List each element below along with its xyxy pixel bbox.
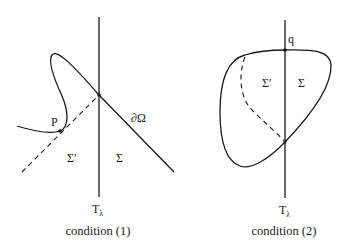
region-sigma-label: Σ (298, 76, 305, 90)
reflected-dashed-line (22, 95, 99, 172)
panel-condition-2: q Σ′ Σ Tλ condition (2) (220, 20, 331, 238)
intersection-point-marker (97, 93, 101, 97)
hyperplane-label: Tλ (279, 203, 290, 219)
reflected-dashed-curve (241, 57, 285, 142)
boundary-curve (17, 54, 174, 172)
point-p-marker (58, 129, 62, 133)
caption-condition-2: condition (2) (252, 224, 317, 238)
hyperplane-label: Tλ (92, 202, 103, 218)
region-sigma-label: Σ (116, 151, 123, 165)
diagram-figure: P ∂Ω Σ′ Σ Tλ condition (1) q Σ′ Σ Tλ con… (0, 0, 348, 251)
point-q-label: q (288, 32, 294, 46)
caption-condition-1: condition (1) (66, 224, 131, 238)
point-p-label: P (51, 115, 58, 129)
boundary-label: ∂Ω (131, 111, 146, 125)
region-sigma-prime-label: Σ′ (262, 76, 272, 90)
region-sigma-prime-label: Σ′ (67, 151, 77, 165)
hyperplane-label-subscript: λ (99, 209, 103, 218)
panel-condition-1: P ∂Ω Σ′ Σ Tλ condition (1) (17, 17, 174, 238)
domain-boundary-curve (220, 50, 331, 167)
hyperplane-label-subscript: λ (286, 210, 290, 219)
intersection-point-marker (284, 141, 287, 144)
point-q-marker (283, 48, 287, 52)
